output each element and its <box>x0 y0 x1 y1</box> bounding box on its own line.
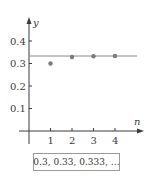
sequence-chart: y n 0.4 0.3 0.2 0.1 1 2 3 4 <box>0 0 152 178</box>
y-tick-label: 0.1 <box>10 103 26 114</box>
y-tick-label: 0.4 <box>10 36 26 47</box>
y-axis-arrow-icon <box>27 17 32 24</box>
data-point <box>70 55 74 59</box>
data-point <box>48 61 52 65</box>
x-tick-label: 3 <box>91 135 97 146</box>
x-tick-label: 4 <box>112 135 118 146</box>
x-tick-label: 2 <box>69 135 75 146</box>
x-axis-label: n <box>134 116 140 127</box>
x-tick-label: 1 <box>48 135 54 146</box>
data-point <box>113 54 117 58</box>
y-axis-label: y <box>32 17 39 28</box>
x-axis-arrow-icon <box>137 129 144 134</box>
data-point <box>91 54 95 58</box>
sequence-caption: 0.3, 0.33, 0.333, … <box>33 153 120 171</box>
y-tick-label: 0.2 <box>10 81 26 92</box>
y-tick-label: 0.3 <box>10 58 26 69</box>
